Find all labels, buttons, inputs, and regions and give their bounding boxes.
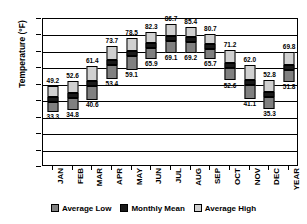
bar-segment-average-low[interactable]	[264, 97, 275, 109]
x-axis-tick-mark	[190, 166, 191, 170]
y-axis-title: Temperature (°F)	[17, 0, 31, 109]
x-axis-tick-mark	[288, 166, 289, 170]
legend-label: Average High	[205, 204, 256, 213]
x-axis-tick-mark	[91, 166, 92, 170]
bar-column[interactable]: 52.634.8	[63, 19, 83, 167]
legend-item[interactable]: Average High	[194, 204, 256, 213]
bar-segment-average-high[interactable]	[126, 38, 137, 51]
bar-segment-average-low[interactable]	[244, 85, 255, 100]
bar-segment-average-high[interactable]	[87, 66, 98, 81]
bar-segment-average-low[interactable]	[165, 41, 176, 53]
legend-swatch-icon	[51, 204, 59, 212]
bar-segment-average-low[interactable]	[284, 70, 295, 82]
legend-item[interactable]: Monthly Mean	[120, 204, 184, 213]
bar-segment-average-high[interactable]	[284, 52, 295, 64]
x-axis-tick-mark	[249, 166, 250, 170]
y-axis-tick-mark	[36, 150, 41, 151]
bar-segment-average-low[interactable]	[205, 49, 216, 59]
y-axis-tick-mark	[36, 34, 41, 35]
bar-segment-average-high[interactable]	[47, 86, 58, 96]
bar-value-label-mean: 51.8	[272, 83, 306, 91]
y-axis-tick-mark	[36, 133, 41, 134]
plot-area: 49.233.352.634.861.440.673.753.478.559.1…	[42, 18, 298, 166]
x-axis-tick-mark	[72, 166, 73, 170]
x-axis-tick-mark	[150, 166, 151, 170]
x-axis-tick-mark	[170, 166, 171, 170]
y-axis-tick-mark	[36, 18, 41, 19]
bar-segment-average-high[interactable]	[165, 24, 176, 36]
y-axis-tick-mark	[36, 166, 41, 167]
x-axis-tick-mark	[52, 166, 53, 170]
bar-column[interactable]: 62.041.1	[240, 19, 260, 167]
x-axis-tick-mark	[209, 166, 210, 170]
bar-column[interactable]: 71.252.6	[220, 19, 240, 167]
legend-item[interactable]: Average Low	[51, 204, 112, 213]
bar-segment-average-low[interactable]	[225, 68, 236, 81]
legend-label: Monthly Mean	[131, 204, 184, 213]
chart-container: Temperature (°F) 0102030405060708090 49.…	[0, 0, 307, 224]
y-axis-tick-mark	[36, 51, 41, 52]
chart-legend: Average LowMonthly MeanAverage High	[0, 201, 307, 215]
x-axis-tick-mark	[229, 166, 230, 170]
x-axis-tick-mark	[131, 166, 132, 170]
x-axis-tick-mark	[111, 166, 112, 170]
y-axis-tick-mark	[36, 67, 41, 68]
legend-swatch-icon	[120, 204, 128, 212]
bar-segment-average-high[interactable]	[146, 32, 157, 43]
bar-column[interactable]: 82.365.9	[141, 19, 161, 167]
bar-column[interactable]: 69.851.8	[279, 19, 299, 167]
bar-segment-average-high[interactable]	[67, 81, 78, 93]
bar-segment-average-high[interactable]	[106, 46, 117, 60]
bar-column[interactable]: 85.469.2	[181, 19, 201, 167]
bar-value-label-high: 69.8	[272, 43, 306, 51]
bar-column[interactable]: 78.559.1	[122, 19, 142, 167]
y-axis-tick-mark	[36, 100, 41, 101]
bar-segment-average-low[interactable]	[185, 42, 196, 53]
bar-column[interactable]: 49.233.3	[43, 19, 63, 167]
bar-column[interactable]: 86.769.1	[161, 19, 181, 167]
bar-column[interactable]: 73.753.4	[102, 19, 122, 167]
bar-column[interactable]: 52.835.3	[260, 19, 280, 167]
legend-label: Average Low	[62, 204, 112, 213]
x-axis-tick-mark	[268, 166, 269, 170]
legend-swatch-icon	[194, 204, 202, 212]
